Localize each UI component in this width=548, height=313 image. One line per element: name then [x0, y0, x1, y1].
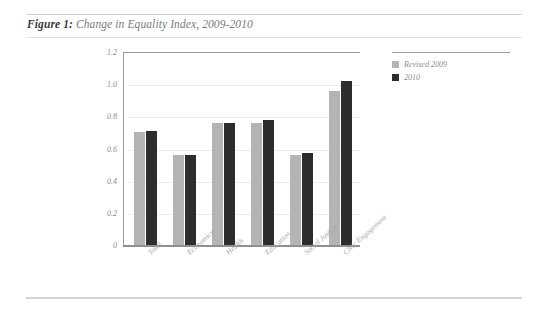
bar[interactable]: [302, 153, 313, 245]
bar-groups: [126, 52, 360, 245]
x-label-cell: Health: [204, 248, 243, 298]
bar[interactable]: [251, 123, 262, 245]
bar[interactable]: [263, 120, 274, 245]
x-label-cell: Social Justice: [282, 248, 321, 298]
x-axis-labels: TotalEconomicsHealthEducationSocial Just…: [126, 248, 360, 298]
bar[interactable]: [212, 123, 223, 245]
rule-top: [26, 14, 522, 15]
bar[interactable]: [290, 155, 301, 245]
y-tick-label: 0.6: [87, 144, 117, 153]
chart-legend: Revised 20092010: [392, 52, 510, 86]
x-label-cell: Total: [126, 248, 165, 298]
legend-rule: [392, 52, 510, 53]
x-label-cell: Education: [243, 248, 282, 298]
x-label-cell: Economics: [165, 248, 204, 298]
bar[interactable]: [341, 81, 352, 245]
bar[interactable]: [329, 91, 340, 245]
legend-swatch: [392, 74, 399, 81]
rule-bottom: [26, 297, 522, 299]
bar[interactable]: [185, 155, 196, 245]
bar-group: [243, 52, 282, 245]
figure-container: Figure 1: Change in Equality Index, 2009…: [0, 0, 548, 313]
bar[interactable]: [134, 132, 145, 245]
bar-group: [204, 52, 243, 245]
y-tick-label: 0.2: [87, 208, 117, 217]
bar-group: [126, 52, 165, 245]
y-axis-ticks: 1.21.00.80.60.40.20: [85, 52, 117, 245]
figure-title: Change in Equality Index, 2009-2010: [76, 18, 253, 30]
y-tick-label: 1.0: [87, 80, 117, 89]
legend-item[interactable]: Revised 2009: [392, 60, 510, 69]
bar-group: [165, 52, 204, 245]
figure-caption: Figure 1: Change in Equality Index, 2009…: [27, 18, 253, 30]
rule-under-caption: [26, 37, 522, 38]
legend-label: 2010: [404, 73, 420, 82]
bar[interactable]: [146, 131, 157, 245]
bar-group: [321, 52, 360, 245]
bar-group: [282, 52, 321, 245]
y-tick-label: 1.2: [87, 48, 117, 57]
legend-item[interactable]: 2010: [392, 73, 510, 82]
y-tick-label: 0.4: [87, 176, 117, 185]
legend-swatch: [392, 61, 399, 68]
legend-items: Revised 20092010: [392, 60, 510, 82]
bar[interactable]: [224, 123, 235, 245]
x-label-cell: Civic Engagement: [321, 248, 360, 298]
legend-label: Revised 2009: [404, 60, 447, 69]
figure-label: Figure 1:: [27, 18, 73, 30]
y-tick-label: 0.8: [87, 112, 117, 121]
y-tick-label: 0: [87, 241, 117, 250]
bar[interactable]: [173, 155, 184, 245]
